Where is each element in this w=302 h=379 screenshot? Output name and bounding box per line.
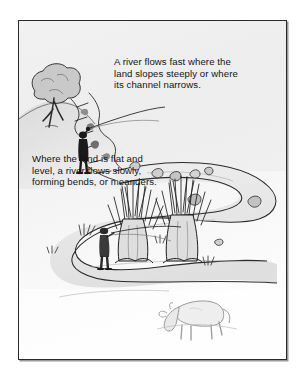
foreground-field xyxy=(19,289,286,359)
caption-meanders: Where the land is flat and level, a rive… xyxy=(32,153,202,188)
caption-fast-flow: A river flows fast where the land slopes… xyxy=(114,56,282,91)
illustration-plate: A river flows fast where the land slopes… xyxy=(18,20,287,360)
illustration-page: A river flows fast where the land slopes… xyxy=(0,0,302,379)
